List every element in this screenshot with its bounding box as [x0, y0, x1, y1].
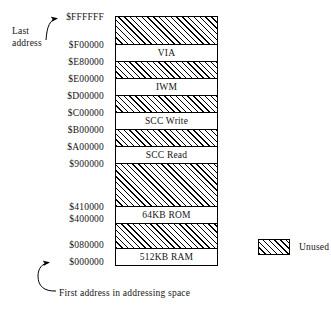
memory-segment: 512KB RAM — [115, 248, 218, 266]
address-label: $E80000 — [68, 57, 104, 67]
memory-segment-unused — [115, 95, 218, 113]
memory-segment-unused — [115, 61, 218, 79]
address-label: $FFFFFF — [66, 12, 104, 22]
memory-segment: IWM — [115, 78, 218, 96]
address-label: $410000 — [69, 202, 104, 212]
first-address-callout: First address in addressing space — [59, 288, 190, 300]
memory-segment: SCC Write — [115, 112, 218, 130]
legend-label-unused: Unused — [299, 242, 329, 252]
first-address-arrow-icon — [38, 263, 56, 292]
address-label: $080000 — [69, 240, 104, 250]
address-label: $000000 — [69, 257, 104, 267]
address-label: $A00000 — [67, 142, 104, 152]
address-label: $F00000 — [69, 40, 104, 50]
memory-segment-unused — [115, 163, 218, 207]
address-label: $E00000 — [68, 74, 104, 84]
memory-segment-label: VIA — [158, 48, 176, 58]
memory-segment-label: SCC Write — [145, 116, 188, 126]
memory-segment-label: 64KB ROM — [142, 210, 190, 220]
last-address-callout: Last address — [12, 26, 58, 49]
legend: Unused — [258, 239, 329, 255]
address-label: $900000 — [69, 159, 104, 169]
address-label: $400000 — [69, 214, 104, 224]
memory-segment-unused — [115, 129, 218, 147]
memory-map-diagram: $FFFFFF$F00000$E80000$E00000$D00000$C000… — [0, 0, 331, 314]
address-label: $D00000 — [67, 91, 104, 101]
memory-segment: SCC Read — [115, 146, 218, 164]
legend-swatch-unused-icon — [258, 239, 290, 255]
memory-map-column: VIAIWMSCC WriteSCC Read64KB ROM512KB RAM — [115, 16, 218, 265]
memory-segment-label: IWM — [156, 82, 177, 92]
memory-segment: 64KB ROM — [115, 206, 218, 224]
memory-segment-label: 512KB RAM — [140, 252, 193, 262]
address-label: $B00000 — [68, 125, 104, 135]
address-label: $C00000 — [68, 108, 104, 118]
memory-segment-label: SCC Read — [146, 150, 187, 160]
memory-segment-unused — [115, 223, 218, 249]
memory-segment-unused — [115, 16, 218, 45]
memory-segment: VIA — [115, 44, 218, 62]
